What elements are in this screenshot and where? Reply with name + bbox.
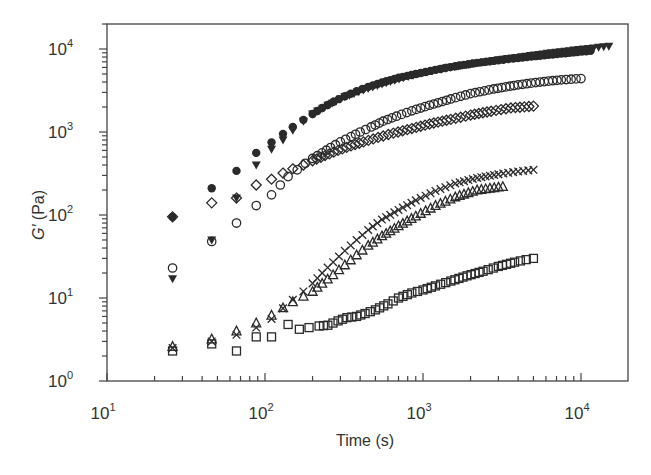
data-series-layer: [168, 43, 614, 355]
y-tick-label: 100: [48, 369, 73, 391]
x-tick-label: 101: [90, 401, 115, 423]
y-tick-label: 101: [48, 286, 73, 308]
chart: 101102103104100101102103104 Time (s) G′ …: [0, 0, 651, 475]
x-axis-label: Time (s): [336, 432, 394, 449]
y-axis-label: G′ (Pa): [30, 190, 47, 240]
y-tick-label: 103: [48, 120, 73, 142]
x-tick-label: 104: [564, 401, 589, 423]
series-open-square: [169, 254, 538, 355]
y-tick-label: 102: [48, 203, 73, 225]
series-open-diamond: [168, 101, 539, 222]
y-tick-label: 104: [48, 37, 73, 59]
x-tick-label: 103: [406, 401, 431, 423]
x-tick-label: 102: [248, 401, 273, 423]
